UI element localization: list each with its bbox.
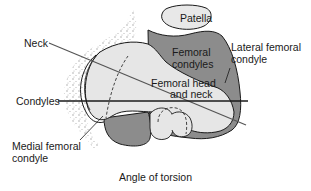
label-neck: Neck [24, 37, 48, 49]
label-medial-femoral-condyle-line2: condyle [12, 152, 48, 164]
angle-of-torsion-diagram: Patella Neck Femoral condyles Lateral fe… [0, 0, 311, 191]
label-lateral-femoral-condyle-line2: condyle [231, 53, 267, 65]
diagram-caption: Angle of torsion [0, 171, 311, 183]
label-condyles: Condyles [16, 95, 60, 107]
label-femoral-head-line2: and neck [170, 88, 213, 100]
intercondylar-region [150, 108, 174, 140]
label-lateral-femoral-condyle-line1: Lateral femoral [231, 41, 301, 53]
label-patella: Patella [180, 12, 212, 24]
label-femoral-condyles-line1: Femoral [172, 46, 211, 58]
label-femoral-condyles-line2: condyles [172, 58, 213, 70]
label-medial-femoral-condyle-line1: Medial femoral [12, 140, 81, 152]
